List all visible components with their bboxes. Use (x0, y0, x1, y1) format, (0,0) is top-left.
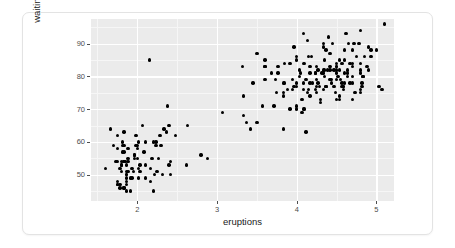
y-axis-tick-mark (87, 109, 90, 110)
x-axis-tick-mark (137, 201, 138, 204)
x-axis-tick-labels: 2345 (23, 13, 434, 236)
x-axis-tick-mark (376, 201, 377, 204)
x-axis-tick-label: 3 (215, 205, 219, 214)
x-axis-tick-label: 4 (295, 205, 299, 214)
ggplot-scatter-plot: 5060708090 2345 eruptions waiting (23, 13, 434, 236)
screenshot-root: 5060708090 2345 eruptions waiting (0, 0, 455, 248)
x-axis-tick-mark (217, 201, 218, 204)
y-axis-title: waiting (31, 0, 43, 99)
x-axis-tick-mark (297, 201, 298, 204)
x-axis-tick-label: 5 (374, 205, 378, 214)
x-axis-title: eruptions (91, 216, 394, 227)
y-axis-tick-mark (87, 175, 90, 176)
plot-card: 5060708090 2345 eruptions waiting (22, 12, 433, 235)
y-axis-tick-mark (87, 142, 90, 143)
y-axis-tick-mark (87, 44, 90, 45)
x-axis-tick-label: 2 (135, 205, 139, 214)
y-axis-tick-mark (87, 76, 90, 77)
